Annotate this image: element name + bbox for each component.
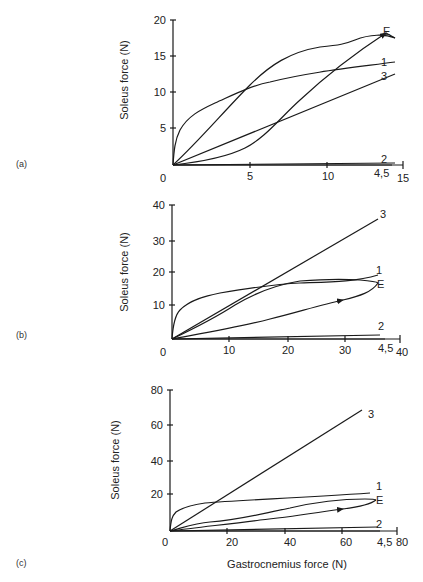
curves-b	[172, 219, 385, 339]
label-4-5-a: 4,5	[374, 167, 389, 179]
label-4-5-b: 4,5	[378, 342, 393, 354]
svg-text:20: 20	[154, 14, 166, 26]
y-tick-labels-b: 40 30 20 10	[153, 199, 165, 311]
series-3-a	[173, 74, 395, 165]
svg-text:15: 15	[154, 50, 166, 62]
curves-c	[170, 410, 380, 531]
svg-text:80: 80	[396, 536, 408, 548]
svg-text:10: 10	[154, 86, 166, 98]
curves-a	[173, 33, 395, 165]
label-E-b: E	[377, 278, 384, 290]
svg-text:60: 60	[151, 419, 163, 431]
series-labels-a: E 1 3 2 4,5	[374, 25, 390, 179]
x-tick-labels-b: 0 10 20 30 40	[160, 344, 408, 358]
svg-text:30: 30	[339, 344, 351, 356]
panel-label-a: (a)	[16, 159, 27, 169]
label-E-a: E	[383, 25, 390, 37]
y-axis-title-b: Soleus force (N)	[118, 232, 130, 311]
svg-text:10: 10	[153, 299, 165, 311]
svg-text:20: 20	[153, 266, 165, 278]
svg-text:60: 60	[340, 536, 352, 548]
label-2-a: 2	[381, 153, 387, 165]
panel-label-c: (c)	[16, 558, 27, 568]
label-3-c: 3	[368, 408, 374, 420]
axes-c	[167, 390, 397, 535]
series-labels-b: 3 1 E 2 4,5	[376, 208, 393, 354]
svg-text:0: 0	[160, 346, 166, 358]
svg-text:20: 20	[282, 344, 294, 356]
label-4-5-c: 4,5	[377, 536, 392, 548]
x-tick-labels-c: 0 20 40 60 80	[162, 536, 408, 548]
y-tick-labels-a: 20 15 10 5	[154, 14, 166, 134]
label-1-a: 1	[381, 56, 387, 68]
svg-text:40: 40	[151, 455, 163, 467]
series-E-unloading-b	[172, 279, 378, 339]
label-2-b: 2	[378, 320, 384, 332]
svg-text:0: 0	[162, 536, 168, 548]
svg-text:10: 10	[322, 170, 334, 182]
figure-canvas: (a) Soleus force (N) 20 15 10 5 0 5 10 1	[0, 0, 423, 582]
label-E-c: E	[376, 494, 383, 506]
svg-text:40: 40	[284, 536, 296, 548]
svg-text:30: 30	[153, 235, 165, 247]
x-tick-labels-a: 0 5 10 15	[160, 170, 409, 184]
svg-text:15: 15	[397, 172, 409, 184]
panel-a: (a) Soleus force (N) 20 15 10 5 0 5 10 1	[16, 14, 409, 184]
label-3-a: 3	[381, 70, 387, 82]
series-1-a	[173, 62, 395, 165]
svg-text:5: 5	[247, 170, 253, 182]
y-axis-title-c: Soleus force (N)	[109, 420, 121, 499]
svg-text:20: 20	[151, 488, 163, 500]
series-1-b	[172, 275, 378, 339]
svg-text:80: 80	[151, 384, 163, 396]
svg-text:5: 5	[160, 122, 166, 134]
x-axis-title-c: Gastrocnemius force (N)	[227, 558, 347, 570]
series-E-loading-b	[172, 300, 343, 339]
panel-b: (b) Soleus force (N) 40 30 20 10 0 10 20…	[16, 199, 408, 358]
svg-text:40: 40	[153, 199, 165, 211]
label-2-c: 2	[376, 518, 382, 530]
svg-text:0: 0	[160, 172, 166, 184]
label-1-b: 1	[376, 264, 382, 276]
y-tick-labels-c: 80 60 40 20	[151, 384, 163, 500]
label-1-c: 1	[376, 480, 382, 492]
panel-label-b: (b)	[16, 330, 27, 340]
label-3-b: 3	[380, 208, 386, 220]
svg-text:10: 10	[223, 344, 235, 356]
axes-a	[170, 20, 403, 169]
svg-text:40: 40	[396, 346, 408, 358]
series-E-loading-a	[173, 33, 386, 165]
y-axis-title-a: Soleus force (N)	[118, 40, 130, 119]
svg-text:20: 20	[226, 536, 238, 548]
series-E-unloading-a	[173, 35, 395, 165]
panel-c: (c) Soleus force (N) Gastrocnemius force…	[16, 384, 408, 570]
